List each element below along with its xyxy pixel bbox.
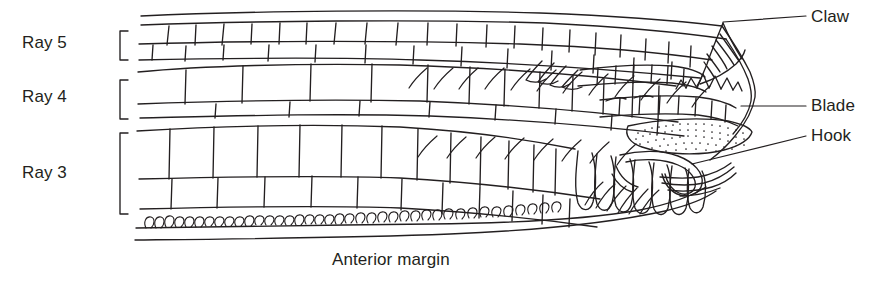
bracket-ray4 xyxy=(120,80,128,119)
label-claw: Claw xyxy=(811,8,849,25)
blade-stipple xyxy=(635,123,745,152)
label-ray5: Ray 5 xyxy=(22,34,67,51)
label-anterior-margin: Anterior margin xyxy=(332,251,450,268)
leader-hook xyxy=(692,136,806,164)
leader-claw xyxy=(723,16,806,22)
figure-root: Ray 5 Ray 4 Ray 3 Claw Blade Hook Anteri… xyxy=(0,0,888,289)
label-hook: Hook xyxy=(811,127,851,144)
tip-outline xyxy=(710,26,755,160)
ray3-structure xyxy=(137,125,600,227)
label-ray4: Ray 4 xyxy=(22,88,67,105)
label-blade: Blade xyxy=(811,97,855,114)
leader-lines xyxy=(692,16,806,164)
ray-anatomy-drawing xyxy=(0,0,888,289)
ray5-structure xyxy=(139,11,726,79)
label-ray3: Ray 3 xyxy=(22,164,67,181)
bracket-ray3 xyxy=(120,133,128,214)
bracket-ray5 xyxy=(120,31,128,60)
